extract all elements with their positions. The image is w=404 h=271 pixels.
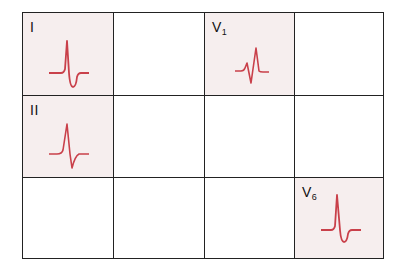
cell-empty (295, 13, 383, 96)
ecg-waveform-icon (23, 96, 113, 178)
cell-empty (295, 96, 383, 178)
cell-empty (114, 96, 205, 178)
cell-lead-ii: II (23, 96, 114, 178)
cell-lead-i: I (23, 13, 114, 96)
cell-empty (23, 178, 114, 258)
cell-empty (114, 178, 205, 258)
ecg-lead-grid: I V1 II V6 (22, 12, 384, 259)
cell-empty (114, 13, 205, 96)
cell-empty (205, 178, 295, 258)
cell-lead-v6: V6 (295, 178, 383, 258)
cell-lead-v1: V1 (205, 13, 295, 96)
ecg-waveform-icon (23, 13, 113, 95)
cell-empty (205, 96, 295, 178)
ecg-waveform-icon (205, 13, 295, 95)
ecg-waveform-icon (295, 178, 385, 260)
